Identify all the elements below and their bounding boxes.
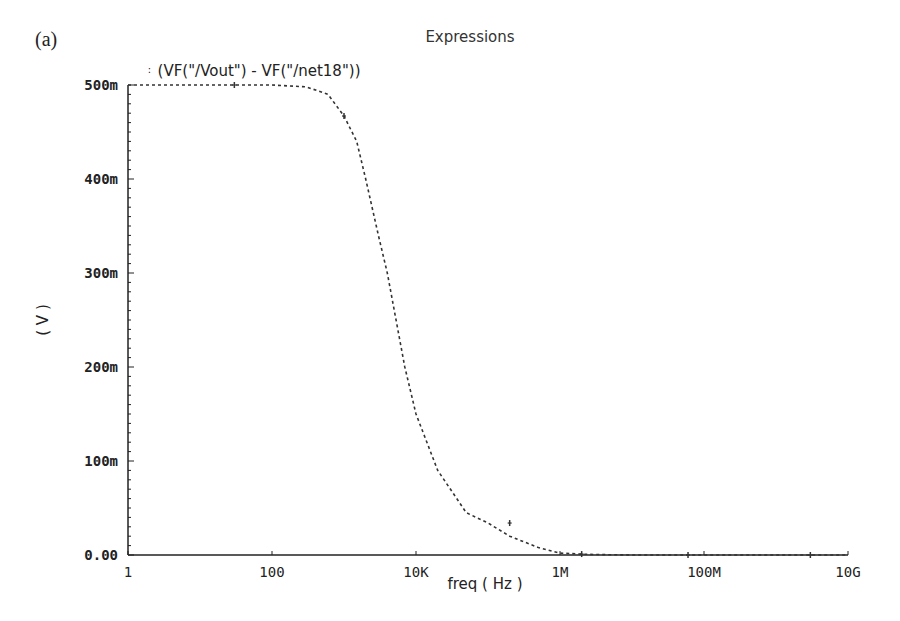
y-tick-label: 500m	[84, 77, 118, 93]
y-tick-label: 300m	[84, 265, 118, 281]
data-curve	[128, 85, 848, 555]
curve-markers	[232, 82, 812, 558]
x-tick-label: 100M	[687, 564, 721, 580]
x-tick-label: 100	[259, 564, 284, 580]
y-tick-label: 100m	[84, 453, 118, 469]
tick-marks	[128, 85, 848, 555]
y-tick-label: 200m	[84, 359, 118, 375]
y-tick-label: 400m	[84, 171, 118, 187]
axes	[128, 85, 848, 555]
y-tick-label: 0.00	[84, 547, 118, 563]
x-tick-label: 1	[124, 564, 132, 580]
plot-area: 500m400m300m200m100m0.00 110010K1M100M10…	[0, 0, 900, 621]
x-tick-label: 10G	[835, 564, 860, 580]
x-tick-label: 10K	[403, 564, 429, 580]
x-axis-label: freq ( Hz )	[447, 575, 522, 593]
y-tick-labels: 500m400m300m200m100m0.00	[84, 77, 118, 563]
x-tick-label: 1M	[552, 564, 569, 580]
y-axis-label: ( V )	[34, 304, 52, 336]
